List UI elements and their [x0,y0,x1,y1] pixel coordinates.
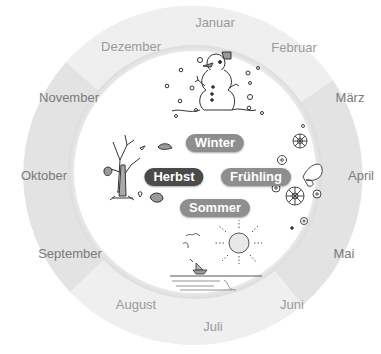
month-label-juli: Juli [203,319,223,334]
season-pill-fruehling[interactable]: Frühling [221,168,291,186]
month-label-august: August [116,297,156,312]
season-pill-winter[interactable]: Winter [186,134,244,152]
month-label-november: November [39,90,99,105]
month-label-april: April [348,168,374,183]
month-label-januar: Januar [195,15,235,30]
month-label-juni: Juni [280,297,304,312]
month-label-september: September [38,246,102,261]
month-label-dezember: Dezember [101,39,161,54]
season-pill-sommer[interactable]: Sommer [180,199,250,217]
month-label-mai: Mai [334,246,355,261]
month-label-oktober: Oktober [21,168,67,183]
season-pill-herbst[interactable]: Herbst [144,168,203,186]
month-label-februar: Februar [271,40,317,55]
month-label-maerz: März [336,90,365,105]
